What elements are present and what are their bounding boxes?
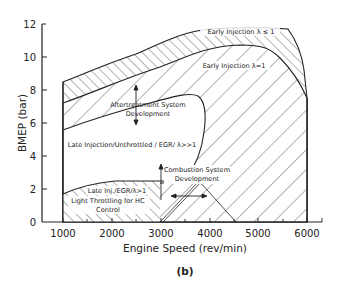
label-late-injection: Late Injection/Unthrottled / EGR/ λ>>1 (68, 141, 196, 149)
y-ticks (42, 57, 47, 189)
bmep-engine-speed-chart: 12 10 8 6 4 2 0 1000 2000 3000 4000 5000… (0, 0, 345, 284)
svg-text:2000: 2000 (99, 228, 124, 239)
svg-text:10: 10 (23, 52, 36, 63)
label-late-inj-egr: Late Inj./EGR/λ>1 (88, 187, 146, 195)
label-combustion-1: Combustion System (164, 166, 230, 174)
svg-text:6000: 6000 (294, 228, 319, 239)
label-early-injection-eq1: Early Injection λ=1 (203, 62, 266, 70)
svg-text:3000: 3000 (148, 228, 173, 239)
figure-caption: (b) (176, 265, 193, 277)
y-axis-title: BMEP (bar) (16, 94, 28, 152)
x-tick-labels: 1000 2000 3000 4000 5000 6000 (50, 228, 319, 239)
svg-text:2: 2 (30, 184, 36, 195)
svg-text:0: 0 (30, 217, 36, 228)
label-aftertreatment-2: Development (126, 110, 171, 118)
label-light-throttling-1: Light Throttling for HC (71, 197, 145, 205)
svg-text:5000: 5000 (245, 228, 270, 239)
svg-text:4000: 4000 (197, 228, 222, 239)
label-early-injection-le1: Early Injection λ ≤ 1 (208, 28, 275, 36)
svg-text:12: 12 (23, 19, 36, 30)
svg-text:8: 8 (30, 85, 36, 96)
label-aftertreatment-1: Aftertreatment System (110, 101, 186, 109)
x-axis-title: Engine Speed (rev/min) (123, 242, 247, 254)
label-light-throttling-2: Control (96, 206, 120, 214)
svg-text:1000: 1000 (50, 228, 75, 239)
svg-text:4: 4 (30, 151, 36, 162)
svg-text:6: 6 (30, 118, 36, 129)
label-combustion-2: Development (175, 175, 220, 183)
